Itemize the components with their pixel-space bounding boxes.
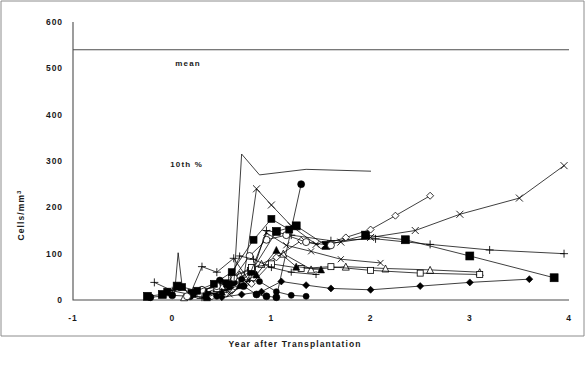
marker-square-filled bbox=[164, 288, 171, 295]
marker-diamond-open bbox=[427, 192, 434, 199]
y-tick-label: 600 bbox=[46, 17, 63, 27]
marker-square-filled bbox=[268, 215, 275, 222]
marker-square-filled bbox=[228, 269, 235, 276]
marker-circle-filled bbox=[214, 293, 220, 299]
marker-square-filled bbox=[286, 226, 293, 233]
marker-square-filled bbox=[272, 227, 280, 235]
marker-circle-filled bbox=[147, 294, 154, 301]
svg-text:Year after Transplantation: Year after Transplantation bbox=[229, 339, 362, 349]
marker-circle-filled bbox=[239, 276, 245, 282]
marker-square-filled bbox=[210, 280, 217, 287]
marker-square-filled bbox=[466, 252, 474, 260]
marker-circle-filled bbox=[298, 181, 305, 188]
marker-diamond-filled bbox=[526, 276, 533, 283]
marker-x-cross bbox=[283, 242, 289, 248]
marker-plus bbox=[198, 263, 206, 271]
data-series bbox=[143, 154, 568, 301]
marker-plus bbox=[486, 246, 494, 254]
y-axis-title: Cells/mm3 bbox=[16, 189, 26, 240]
marker-diamond-filled bbox=[278, 278, 285, 285]
marker-square-filled bbox=[550, 274, 558, 282]
marker-diamond-filled bbox=[327, 285, 334, 292]
marker-diamond-filled bbox=[238, 291, 245, 298]
marker-circle-filled bbox=[227, 284, 233, 290]
marker-square-open bbox=[368, 267, 374, 273]
tenth-percentile-label: 10th % bbox=[170, 160, 203, 169]
y-tick-label: 300 bbox=[46, 156, 63, 166]
axis-spines bbox=[73, 22, 569, 300]
marker-x-cross bbox=[412, 227, 419, 234]
marker-square-filled bbox=[179, 284, 186, 291]
marker-diamond-filled bbox=[466, 279, 473, 286]
marker-circle-filled bbox=[303, 293, 309, 299]
y-tick-label: 0 bbox=[57, 295, 63, 305]
marker-diamond-filled bbox=[417, 283, 424, 290]
y-tick-label: 500 bbox=[46, 63, 63, 73]
marker-diamond-filled bbox=[367, 286, 374, 293]
marker-plus bbox=[230, 254, 238, 262]
marker-plus bbox=[150, 278, 158, 286]
marker-circle-filled bbox=[288, 292, 294, 298]
x-tick-label: 4 bbox=[566, 313, 572, 323]
tick-labels: 0100200300400500600-101234 bbox=[46, 17, 572, 323]
x-tick-label: 2 bbox=[368, 313, 374, 323]
x-tick-label: 3 bbox=[467, 313, 473, 323]
x-tick-label: 0 bbox=[169, 313, 175, 323]
marker-plus bbox=[560, 250, 568, 258]
annotations: mean10th % bbox=[170, 59, 203, 169]
marker-x-cross bbox=[308, 248, 314, 254]
marker-circle-open bbox=[303, 239, 310, 246]
series-line bbox=[207, 166, 564, 296]
marker-circle-filled bbox=[256, 278, 262, 284]
series-patient-04 bbox=[203, 162, 567, 299]
y-tick-label: 400 bbox=[46, 110, 63, 120]
y-tick-label: 100 bbox=[46, 249, 63, 259]
series-patient-03 bbox=[181, 250, 484, 301]
marker-x-cross bbox=[561, 162, 568, 169]
x-tick-label: 1 bbox=[269, 313, 275, 323]
figure-container: 0100200300400500600-101234 mean10th % Ce… bbox=[0, 0, 585, 366]
marker-x-cross bbox=[516, 195, 523, 202]
marker-x-cross bbox=[456, 211, 463, 218]
marker-square-open bbox=[328, 264, 334, 270]
marker-square-filled bbox=[292, 222, 300, 230]
marker-x-cross bbox=[268, 202, 275, 209]
mean-label: mean bbox=[175, 59, 201, 68]
marker-square-filled bbox=[250, 236, 257, 243]
marker-diamond-filled bbox=[303, 282, 310, 289]
scatter-chart: 0100200300400500600-101234 mean10th % Ce… bbox=[0, 0, 585, 366]
marker-circle-filled bbox=[273, 289, 279, 295]
axes bbox=[73, 22, 569, 300]
marker-triangle-filled bbox=[273, 246, 280, 253]
marker-plus bbox=[426, 240, 434, 248]
y-tick-label: 200 bbox=[46, 202, 63, 212]
marker-square-filled bbox=[401, 236, 409, 244]
marker-circle-open bbox=[327, 242, 334, 249]
x-tick-label: -1 bbox=[68, 313, 77, 323]
marker-plus bbox=[213, 268, 221, 276]
x-axis-title: Year after Transplantation bbox=[229, 339, 362, 349]
marker-diamond-open bbox=[392, 212, 399, 219]
marker-square-open bbox=[417, 270, 423, 276]
marker-square-open bbox=[477, 272, 483, 278]
marker-square-filled bbox=[194, 287, 201, 294]
frame-borders bbox=[1, 1, 584, 336]
svg-text:Cells/mm3: Cells/mm3 bbox=[16, 189, 26, 240]
marker-circle-filled bbox=[263, 293, 270, 300]
